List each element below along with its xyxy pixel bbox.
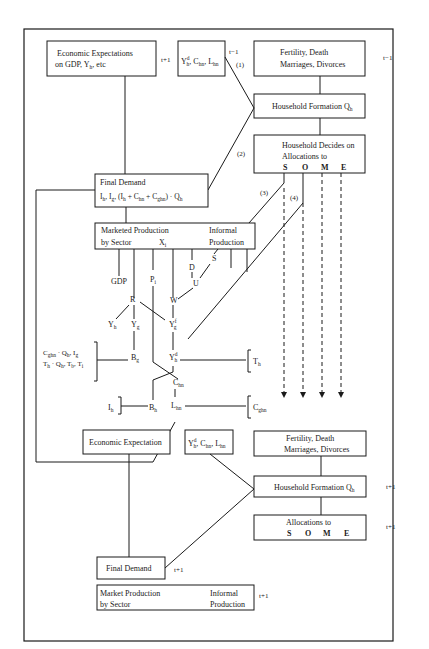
svg-text:Final Demand: Final Demand — [100, 178, 146, 187]
node-th: Th — [253, 357, 261, 367]
svg-text:M: M — [321, 163, 329, 172]
svg-text:E: E — [344, 529, 349, 538]
svg-text:Economic Expectation: Economic Expectation — [89, 438, 162, 447]
svg-text:Informal: Informal — [210, 589, 239, 598]
household-formation-box-t1: Household Formation Qh — [254, 476, 366, 497]
svg-text:Household Formation Qh: Household Formation Qh — [274, 483, 355, 493]
outer-frame — [24, 29, 393, 641]
node-w: W — [170, 296, 178, 305]
period-label: t+1 — [161, 56, 171, 64]
node-s: S — [212, 254, 216, 263]
link-label-1: (1) — [236, 61, 245, 69]
taxes-transfers-bracket: Cghn · Qh, Ig Th · Qh, Tb, Ti — [43, 342, 97, 381]
svg-text:S: S — [287, 529, 292, 538]
svg-text:Allocations to: Allocations to — [282, 152, 327, 161]
node-bg: Bg — [131, 353, 139, 363]
node-gdp: GDP — [111, 277, 128, 286]
household-variables-box: Ydh, Chn, Lhn — [178, 41, 225, 76]
svg-text:Fertility, Death: Fertility, Death — [280, 48, 328, 57]
econ-expectation-box-t1: Economic Expectation — [83, 430, 170, 454]
svg-text:Th · Qh, Tb, Ti: Th · Qh, Tb, Ti — [43, 360, 84, 369]
svg-text:Market Production: Market Production — [100, 589, 160, 598]
fertility-box: Fertility, Death Marriages, Divorces — [254, 41, 365, 76]
node-yh: Yh — [108, 320, 117, 330]
svg-text:by Sector: by Sector — [100, 600, 131, 609]
svg-text:Marriages, Divorces: Marriages, Divorces — [280, 60, 345, 69]
svg-text:O: O — [302, 163, 308, 172]
svg-text:Production: Production — [210, 600, 245, 609]
period-label: t−1 — [229, 48, 239, 56]
svg-text:Fertility, Death: Fertility, Death — [286, 434, 334, 443]
fertility-box-t1: Fertility, Death Marriages, Divorces — [254, 431, 366, 456]
svg-text:Economic Expectations: Economic Expectations — [57, 49, 133, 58]
node-yg: Yg — [131, 320, 140, 330]
svg-text:Marriages, Divorces: Marriages, Divorces — [284, 445, 349, 454]
svg-text:Final Demand: Final Demand — [106, 564, 152, 573]
market-production-box-t1: Market Production by Sector Informal Pro… — [97, 585, 254, 610]
link-label-4: (4) — [290, 194, 299, 202]
period-label: t−1 — [383, 54, 393, 62]
period-label: t+1 — [174, 566, 184, 574]
svg-text:Household Formation Qh: Household Formation Qh — [272, 102, 353, 112]
node-yfg: Yfg — [169, 318, 177, 330]
node-r: R — [130, 295, 136, 304]
household-decides-box: Household Decides on Allocations to S O … — [254, 135, 365, 173]
svg-text:by Sector: by Sector — [101, 238, 132, 247]
period-label: t+1 — [259, 592, 269, 600]
allocations-box-t1: Allocations to S O M E — [254, 515, 366, 540]
node-ih: Ih — [108, 403, 114, 413]
some-allocation-arrows — [281, 173, 344, 398]
node-d: D — [189, 263, 195, 272]
household-variables-box-t1: Ydh, Chn, Lhn — [185, 430, 233, 454]
household-economy-flow-diagram: Economic Expectations on GDP, Yh, etc t+… — [0, 0, 429, 649]
household-formation-box: Household Formation Qh — [254, 94, 365, 118]
svg-text:O: O — [305, 529, 311, 538]
node-chn: Chn — [173, 378, 184, 388]
node-pi: Pi — [150, 275, 156, 285]
svg-text:S: S — [283, 163, 288, 172]
final-demand-box: Final Demand Ih, Ig, (Ih + Chn + Cghn) ·… — [95, 174, 208, 207]
svg-text:Household Decides on: Household Decides on — [282, 141, 354, 150]
svg-text:on GDP, Yh, etc: on GDP, Yh, etc — [55, 60, 106, 70]
node-cghn: Cghn — [253, 403, 267, 413]
link-label-2: (2) — [237, 150, 246, 158]
svg-text:Cghn · Qh, Ig: Cghn · Qh, Ig — [43, 349, 78, 358]
marketed-production-box: Marketed Production by Sector Xi Informa… — [95, 223, 255, 249]
final-demand-box-t1: Final Demand — [97, 557, 165, 579]
link-label-3: (3) — [260, 189, 269, 197]
svg-text:Production: Production — [209, 238, 244, 247]
node-ydh: Ydh — [169, 351, 178, 363]
svg-text:Marketed Production: Marketed Production — [101, 226, 169, 235]
period-label: t+1 — [386, 523, 396, 531]
svg-text:Allocations to: Allocations to — [286, 518, 331, 527]
econ-expectations-box: Economic Expectations on GDP, Yh, etc — [47, 41, 156, 76]
period-label: t+1 — [386, 483, 396, 491]
svg-text:M: M — [323, 529, 331, 538]
node-lhn: Lhn — [171, 401, 182, 411]
node-bh: Bh — [149, 403, 157, 413]
svg-text:E: E — [341, 163, 346, 172]
node-u: U — [193, 279, 199, 288]
svg-text:Informal: Informal — [209, 226, 238, 235]
